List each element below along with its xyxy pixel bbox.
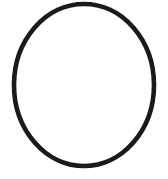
ellipse-figure <box>0 0 168 179</box>
background-rect <box>0 0 168 179</box>
image-canvas: Ellipse <box>0 0 168 179</box>
